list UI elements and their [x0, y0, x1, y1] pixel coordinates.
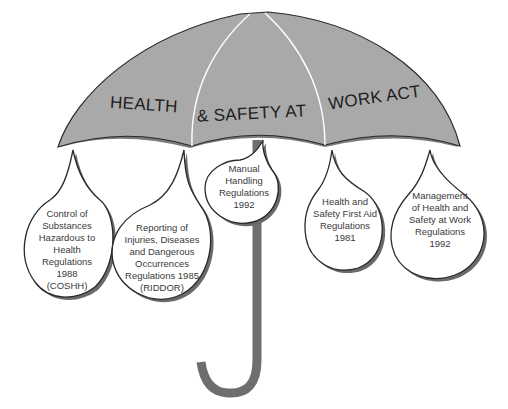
drop-label-first-aid: Health and Safety First Aid Regulations … — [305, 196, 385, 244]
umbrella-canopy — [58, 12, 460, 147]
drop-label-riddor: Reporting of Injuries, Diseases and Dang… — [112, 222, 212, 294]
drop-label-management: Management of Health and Safety at Work … — [397, 190, 483, 250]
drop-label-coshh: Control of Substances Hazardous to Healt… — [22, 208, 112, 292]
drop-label-manual-handling: Manual Handling Regulations 1992 — [208, 163, 280, 211]
